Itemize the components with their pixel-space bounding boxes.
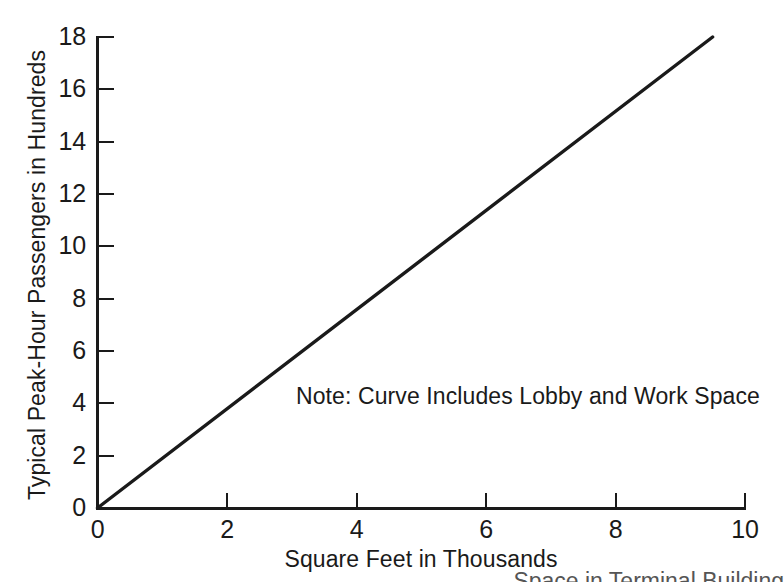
figure-caption: Space in Terminal Building	[420, 568, 784, 582]
chart-figure: 181614121086420 0246810 Typical Peak-Hou…	[0, 0, 784, 582]
x-tick-label: 2	[192, 515, 262, 543]
curve-note-annotation: Note: Curve Includes Lobby and Work Spac…	[296, 383, 760, 410]
plot-area	[0, 0, 784, 582]
x-tick-mark	[356, 493, 358, 508]
y-tick-mark	[99, 88, 114, 90]
y-tick-mark	[99, 455, 114, 457]
x-tick-label: 10	[710, 515, 780, 543]
x-tick-mark	[226, 493, 228, 508]
x-tick-mark	[615, 493, 617, 508]
y-axis-line	[96, 36, 99, 510]
data-series-line	[98, 37, 713, 508]
y-tick-mark	[99, 36, 114, 38]
y-tick-mark	[99, 193, 114, 195]
x-tick-mark	[485, 493, 487, 508]
y-tick-mark	[99, 298, 114, 300]
y-tick-mark	[99, 350, 114, 352]
y-tick-mark	[99, 245, 114, 247]
x-axis-line	[96, 507, 746, 510]
y-tick-mark	[99, 402, 114, 404]
y-axis-title: Typical Peak-Hour Passengers in Hundreds	[24, 25, 50, 525]
x-tick-label: 0	[63, 515, 133, 543]
x-tick-label: 6	[451, 515, 521, 543]
x-tick-mark	[744, 493, 746, 508]
x-tick-label: 8	[581, 515, 651, 543]
y-tick-mark	[99, 141, 114, 143]
x-tick-label: 4	[322, 515, 392, 543]
